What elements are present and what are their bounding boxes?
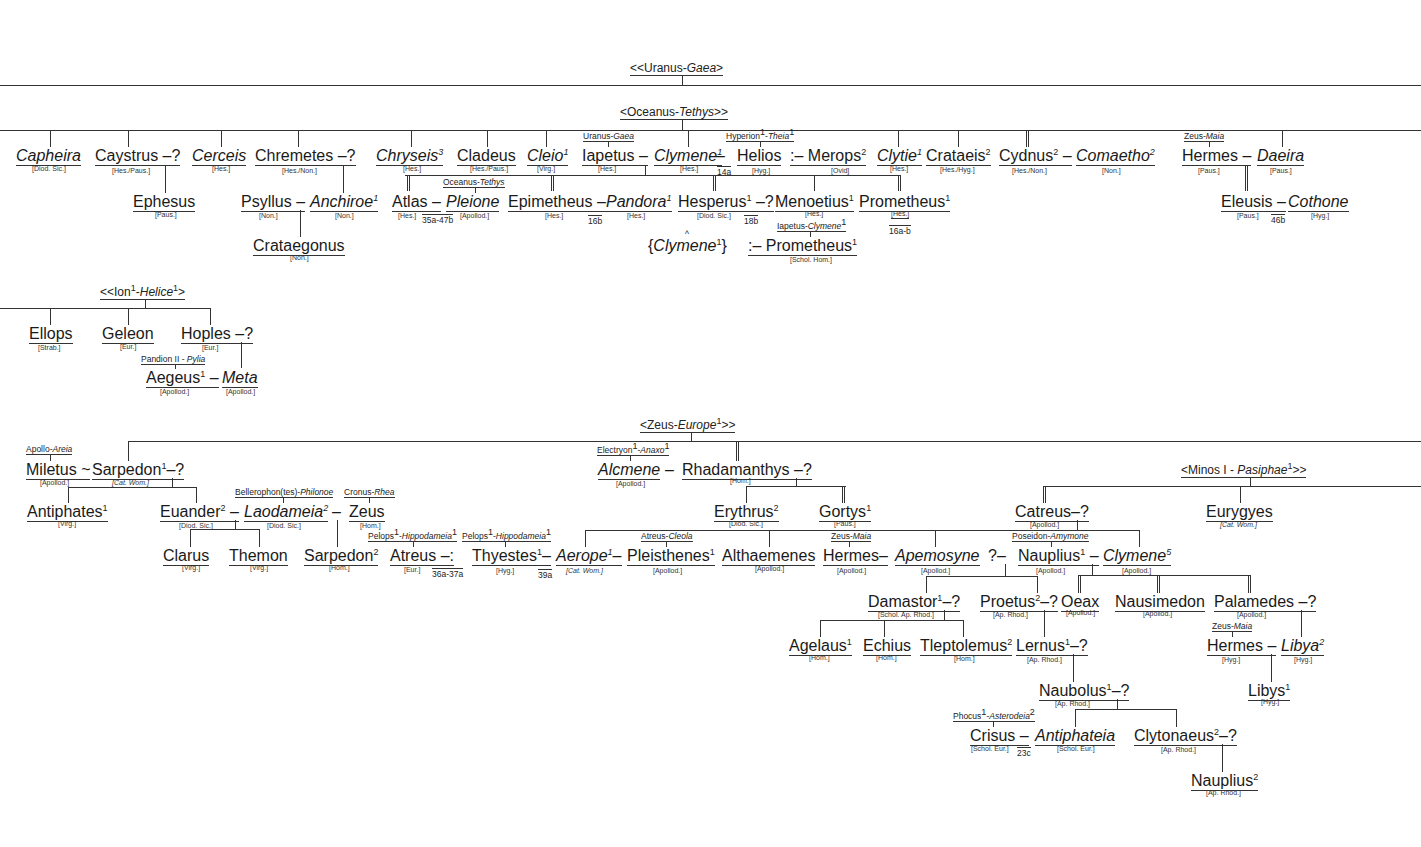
header-text: > — [178, 285, 185, 299]
header-ion-helice: <<Ion1-Helice1> — [100, 285, 185, 300]
connector — [165, 165, 166, 193]
connector — [50, 454, 51, 461]
parent-text: Pelops — [462, 531, 488, 541]
connector — [746, 486, 747, 503]
header-text: <Oceanus- — [620, 105, 679, 119]
superscript: 2 — [1053, 147, 1058, 157]
source-citation: [Non.] — [290, 254, 309, 262]
connector — [688, 130, 689, 147]
superscript: 2 — [1030, 707, 1035, 717]
connector-double — [713, 175, 716, 191]
name: Hoples — [181, 325, 231, 342]
connector — [1117, 699, 1118, 709]
source-citation: [Apollod.] — [1066, 609, 1095, 617]
sibling-line — [1078, 575, 1251, 576]
person-antiphateia: Antiphateia — [1035, 727, 1115, 746]
source-citation: [Ap. Rhod.] — [1055, 700, 1090, 708]
source-citation: [Ovid] — [831, 167, 849, 175]
person-hermes3: Hermes – — [1207, 637, 1276, 656]
person-eleusis: Eleusis – — [1221, 193, 1286, 212]
person-euander: Euander2 – — [160, 503, 239, 522]
marriage-dash: – — [210, 369, 219, 386]
name: Rhadamanthys — [682, 461, 790, 478]
person-aerope: Aerope1– — [556, 547, 622, 566]
name: Palamedes — [1214, 593, 1294, 610]
connector — [814, 175, 815, 191]
name: Aegeus — [146, 369, 200, 386]
sibling-line — [926, 576, 1038, 577]
superscript: 2 — [986, 147, 991, 157]
parents-label: Zeus-Maia — [1184, 131, 1224, 142]
name: Proetus — [980, 593, 1035, 610]
source-citation: [Hes.] — [890, 165, 908, 173]
spouse-unknown-prefix: ?– — [988, 547, 1006, 565]
person-cothone: Cothone — [1288, 193, 1349, 212]
source-citation: [Hom.] — [809, 654, 830, 662]
parents-label: Zeus-Maia — [831, 531, 871, 542]
source-citation: [Cat. Wom.] — [566, 567, 603, 575]
person-sarpedon1: Sarpedon1–? — [92, 461, 184, 480]
name: Prometheus — [859, 193, 945, 210]
source-citation: [Hom.] — [360, 522, 381, 530]
parent-text: Apollo- — [26, 444, 52, 454]
connector — [1044, 610, 1045, 637]
name: Merops — [808, 147, 861, 164]
connector — [196, 487, 197, 503]
parent-text-italic: Amymone — [1050, 531, 1088, 541]
parent-text-italic: Philonoe — [300, 487, 333, 497]
parents-label: Electryon1-Anaxo1 — [597, 445, 669, 456]
spouse-unknown: –? — [1299, 593, 1317, 610]
source-citation: [Hes./Hyg.] — [940, 166, 975, 174]
header-minos-pasiphae: <Minos I - Pasiphae1>> — [1181, 463, 1306, 478]
reference-number: 36a-37a — [432, 568, 463, 579]
source-citation: [Eur.] — [202, 344, 218, 352]
superscript: 1 — [394, 527, 399, 537]
person-anchiroe: Anchiroe1 — [310, 193, 378, 212]
parents-label: Pelops1-Hippodameia1 — [462, 531, 551, 542]
relation-tilde: ~ — [81, 461, 90, 478]
connector — [1282, 130, 1283, 147]
name: Libya — [1281, 637, 1319, 654]
person-hesperus: Hesperus1 –? — [678, 193, 774, 212]
superscript: 1 — [488, 527, 493, 537]
person-pleione: Pleione — [446, 193, 499, 212]
spouse-unknown: –? — [166, 461, 184, 478]
connector — [1037, 576, 1038, 593]
name: Psyllus — [241, 193, 292, 210]
name: Hermes — [823, 547, 879, 564]
marriage-dash: – — [1267, 637, 1276, 654]
superscript: 1 — [667, 193, 672, 203]
source-citation: [Hes./Non.] — [282, 167, 317, 175]
person-prometheus-alt: :– Prometheus1 — [748, 237, 857, 256]
parent-text: Cronus- — [344, 487, 374, 497]
source-citation: [Apollod.] — [1030, 521, 1059, 529]
name: Chryseis — [376, 147, 438, 164]
parent-text: Hyperion — [726, 131, 760, 141]
reference-number: 46b — [1271, 214, 1285, 225]
connector — [221, 130, 222, 147]
person-alcmene: Alcmene — [598, 461, 660, 480]
source-citation: [Apollod.] — [837, 567, 866, 575]
superscript: 1 — [1285, 682, 1290, 692]
header-text: <Minos I - — [1181, 463, 1237, 477]
source-citation: [Apollod.] — [616, 480, 645, 488]
spouse-unknown: –? — [338, 147, 356, 164]
source-citation: [Virg.] — [182, 564, 200, 572]
person-atlas: Atlas – — [392, 193, 441, 212]
parents-label: Iapetus-Clymene1 — [777, 221, 846, 232]
name: Erythrus — [714, 503, 774, 520]
name: Tleptolemus — [920, 637, 1007, 654]
superscript: 1 — [746, 193, 751, 203]
connector-double — [1026, 130, 1029, 147]
person-miletus: Miletus ~ — [26, 461, 90, 480]
connector — [1222, 744, 1223, 772]
header-text-italic: Gaea — [687, 61, 716, 75]
parents-label: Oceanus-Tethys — [443, 177, 505, 188]
superscript: 2 — [1007, 637, 1012, 647]
header-text: <<Uranus- — [630, 61, 687, 75]
parent-text-italic: Cleola — [668, 531, 692, 541]
prefix: :– — [790, 147, 803, 164]
person-pandora: Pandora1 — [606, 193, 672, 212]
person-tleptolemus: Tleptolemus2 — [920, 637, 1012, 656]
source-citation: [Ap. Rhod.] — [1161, 746, 1196, 754]
